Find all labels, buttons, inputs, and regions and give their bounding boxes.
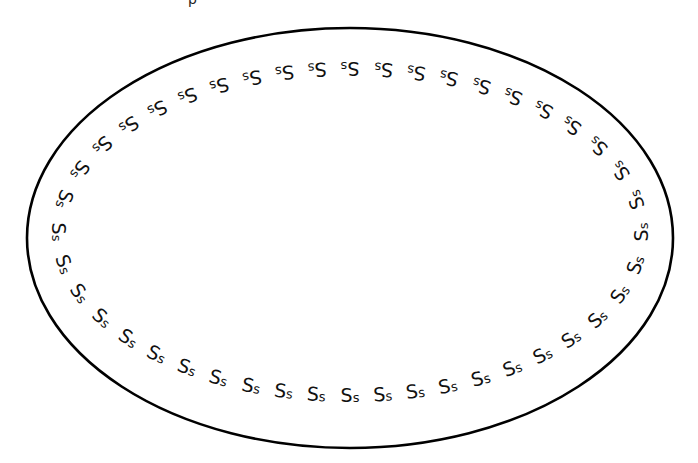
letter-pair-ss: Ss (340, 58, 359, 80)
letter-pair-ss: Ss (88, 132, 117, 161)
letter-pair-ss: Ss (307, 58, 327, 81)
uppercase-s: S (347, 58, 359, 80)
letter-pair-ss: Ss (240, 373, 263, 398)
lowercase-s: s (406, 63, 415, 79)
letter-pair-ss: Ss (583, 132, 612, 161)
letter-pair-ss: Ss (51, 252, 78, 277)
letter-pair-ss: Ss (274, 61, 296, 85)
letter-pair-ss: Ss (529, 340, 556, 368)
uppercase-s: S (314, 58, 327, 81)
letter-pair-ss: Ss (175, 83, 201, 110)
letter-pair-ss: Ss (605, 279, 634, 307)
lowercase-s: s (340, 60, 347, 75)
letter-pair-ss: Ss (115, 324, 143, 353)
letter-pair-ss: Ss (605, 157, 634, 185)
letter-pair-ss: Ss (373, 382, 393, 405)
ss-oval-worksheet: SsSsSsSsSsSsSsSsSsSsSsSsSsSsSsSsSsSsSsSs… (0, 0, 698, 463)
letter-pair-ss: Ss (622, 252, 649, 277)
letter-pair-ss: Ss (341, 384, 360, 406)
letter-pair-ss: Ss (499, 354, 525, 381)
letter-pair-ss: Ss (306, 382, 326, 405)
letter-pair-ss: Ss (437, 66, 460, 91)
letter-pair-ss: Ss (174, 353, 200, 380)
letter-pair-ss: Ss (557, 112, 585, 141)
letter-pair-ss: Ss (144, 340, 171, 368)
letter-pair-ss: Ss (405, 379, 427, 403)
lowercase-s: s (318, 389, 326, 404)
lowercase-s: s (307, 61, 315, 76)
lowercase-s: s (241, 70, 251, 86)
letter-pair-ss: Ss (468, 365, 492, 391)
letter-pair-ss: Ss (241, 66, 264, 91)
letter-pair-ss: Ss (622, 187, 649, 212)
letter-pair-ss: Ss (500, 83, 526, 110)
letter-pair-ss: Ss (630, 222, 652, 241)
letter-pair-ss: Ss (115, 111, 143, 140)
lowercase-s: s (274, 64, 283, 80)
letter-pair-ss: Ss (373, 59, 393, 82)
letter-pair-ss: Ss (48, 223, 70, 242)
letter-pair-ss: Ss (51, 187, 78, 212)
letter-pair-ss: Ss (207, 364, 231, 390)
letter-pair-ss: Ss (273, 379, 295, 403)
letter-pair-ss: Ss (469, 73, 493, 99)
lowercase-s: s (285, 386, 294, 402)
lowercase-s: s (417, 384, 426, 400)
letter-pair-ss: Ss (436, 373, 459, 398)
uppercase-s: S (630, 229, 652, 241)
lowercase-s: s (353, 390, 360, 405)
uppercase-s: S (373, 383, 386, 406)
uppercase-s: S (48, 223, 70, 235)
letter-pair-ss: Ss (144, 96, 171, 124)
letter-pair-ss: Ss (88, 303, 117, 332)
lowercase-s: s (449, 378, 459, 394)
lowercase-s: s (385, 388, 393, 403)
letter-pair-ss: Ss (405, 61, 427, 85)
letter-pair-ss: Ss (557, 324, 585, 353)
letter-pair-ss: Ss (66, 279, 95, 307)
letter-pairs-ring: SsSsSsSsSsSsSsSsSsSsSsSsSsSsSsSsSsSsSsSs… (48, 58, 652, 406)
letter-pair-ss: Ss (66, 157, 95, 185)
lowercase-s: s (50, 235, 65, 242)
letter-pair-ss: Ss (583, 303, 612, 332)
letter-pair-ss: Ss (530, 96, 557, 124)
lowercase-s: s (374, 60, 382, 75)
lowercase-s: s (636, 222, 651, 229)
letter-pair-ss: Ss (207, 73, 231, 99)
uppercase-s: S (341, 384, 353, 406)
